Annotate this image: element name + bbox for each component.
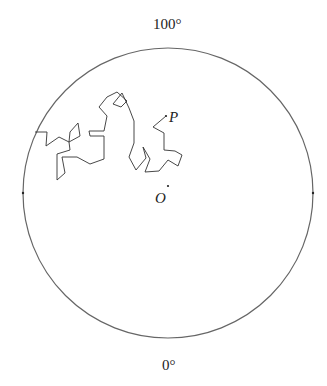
boundary-circle: [23, 48, 313, 338]
random-walk-path: [35, 92, 182, 180]
bottom-angle-label: 0°: [162, 358, 176, 373]
center-label-o: O: [155, 191, 166, 206]
top-angle-label: 100°: [153, 17, 182, 32]
right-edge-dot: [312, 192, 314, 194]
left-edge-dot: [22, 192, 24, 194]
point-label-p: P: [169, 110, 178, 125]
center-point-o: [167, 185, 169, 187]
